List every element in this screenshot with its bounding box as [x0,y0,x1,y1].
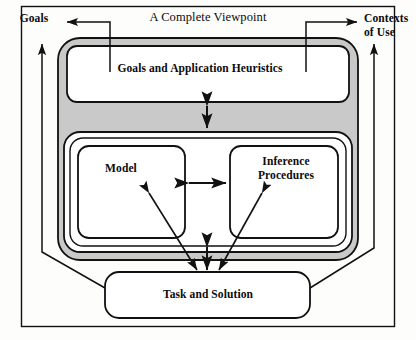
model-box-label: Model [78,162,164,176]
figure-title: A Complete Viewpoint [108,10,308,25]
external-label-contexts-of-use: Contexts of Use [364,12,416,39]
inference-box-label: Inference Procedures [238,155,334,182]
task-box-label: Task and Solution [126,288,290,302]
heuristics-box-label: Goals and Application Heuristics [75,62,325,76]
external-label-goals: Goals [8,12,60,26]
diagram-canvas: A Complete Viewpoint Goals Contexts of U… [0,0,416,340]
